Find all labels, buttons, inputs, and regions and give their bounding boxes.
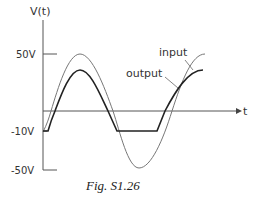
tick-label-neg50v: -50V (11, 165, 34, 176)
output-leader-line (165, 77, 178, 88)
input-label: input (159, 46, 188, 59)
tick-label-neg10v: -10V (11, 126, 34, 137)
x-axis-label: t (243, 105, 248, 118)
tick-label-50v: 50V (16, 49, 36, 60)
figure-caption: Fig. S1.26 (85, 178, 140, 193)
clipper-waveform-diagram: V(t) t 50V -10V -50V input output Fig. S… (0, 0, 253, 207)
y-axis-label: V(t) (30, 5, 50, 18)
output-label: output (126, 67, 163, 80)
arrow-right-icon (236, 108, 242, 114)
output-waveform (43, 70, 203, 131)
